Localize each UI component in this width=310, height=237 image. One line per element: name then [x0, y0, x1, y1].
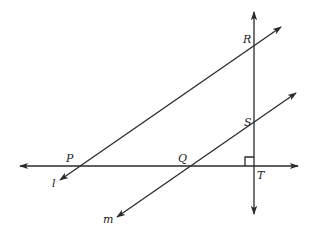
- label-line-l: l: [52, 177, 56, 190]
- label-P: P: [65, 152, 74, 165]
- right-angle-marker: [245, 157, 254, 166]
- geometry-diagram: R S P Q T l m: [0, 0, 310, 237]
- label-Q: Q: [178, 152, 187, 165]
- label-line-m: m: [103, 213, 113, 226]
- line-m: [117, 93, 296, 217]
- label-R: R: [242, 33, 251, 46]
- label-S: S: [244, 116, 252, 129]
- label-T: T: [257, 169, 266, 182]
